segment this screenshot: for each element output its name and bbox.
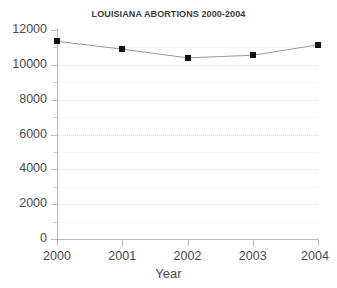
data-point-2000 — [54, 38, 60, 44]
data-point-2001 — [119, 46, 125, 52]
series-line — [0, 0, 337, 288]
data-point-2002 — [185, 55, 191, 61]
data-point-2004 — [315, 42, 321, 48]
data-point-2003 — [250, 52, 256, 58]
chart-container: LOUISIANA ABORTIONS 2000-2004 12000 1000… — [0, 0, 337, 288]
